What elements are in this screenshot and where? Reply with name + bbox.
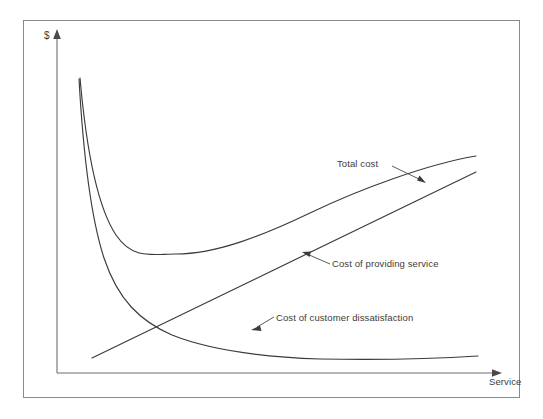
annotation-cost-of-customer-dissatisfaction: Cost of customer dissatisfaction	[276, 313, 413, 323]
y-axis-label: $	[44, 31, 50, 41]
curve-total-cost	[80, 78, 476, 255]
leader-arrow-dissatisfaction-icon	[251, 326, 262, 332]
chart-figure: $ Service Total cost Cost of providing s…	[0, 0, 543, 419]
leader-line-dissatisfaction	[257, 317, 274, 327]
chart-canvas	[0, 0, 543, 419]
x-axis-label: Service	[489, 377, 521, 387]
y-axis-arrow-icon	[53, 29, 61, 39]
annotation-cost-of-providing-service: Cost of providing service	[332, 259, 439, 269]
leader-line-providing-service	[307, 254, 330, 264]
annotation-total-cost: Total cost	[337, 159, 378, 169]
leader-arrow-total-cost-icon	[417, 176, 426, 184]
